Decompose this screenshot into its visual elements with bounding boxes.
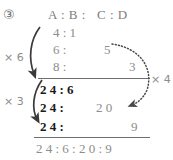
row-5-left: 2 4 : xyxy=(40,101,64,114)
item-number: ③ xyxy=(3,8,15,21)
row-6-right: 9 xyxy=(131,120,138,133)
multiplier-x6-label: × 6 xyxy=(4,52,24,63)
row-3-right: 3 xyxy=(129,60,136,73)
row-4-left: 2 4 : 6 xyxy=(40,83,74,96)
divider-lower xyxy=(34,137,150,138)
row-1-left: 4 : 1 xyxy=(53,26,76,39)
worksheet-figure: ③ A : B : C : D 4 : 1 6 : 5 8 : 3 2 4 : … xyxy=(0,0,173,160)
arrow-x6 xyxy=(31,27,40,74)
row-6-left: 2 4 : xyxy=(40,120,64,133)
row-5-right: 2 0 xyxy=(96,101,112,114)
row-2-right: 5 xyxy=(104,43,111,56)
arrows-overlay xyxy=(0,0,173,160)
final-answer: 2 4 : 6 : 2 0 : 9 xyxy=(36,142,112,155)
column-header: A : B : C : D xyxy=(48,7,128,23)
divider-upper xyxy=(38,78,150,79)
multiplier-x3-label: × 3 xyxy=(4,96,24,107)
arrow-x4 xyxy=(112,44,149,105)
row-2-left: 6 : xyxy=(53,43,66,56)
row-3-left: 8 : xyxy=(53,60,66,73)
multiplier-x4-label: × 4 xyxy=(151,74,171,85)
